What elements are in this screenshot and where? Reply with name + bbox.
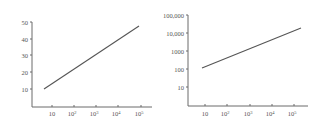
right-x-tick-label: 103 xyxy=(244,110,254,118)
left-x-tick-label: 104 xyxy=(112,110,122,118)
left-x-tick-label: 105 xyxy=(135,110,145,118)
left-y-tick-label: 10 xyxy=(22,86,29,93)
charts-canvas: 50 40 30 20 10 10 102 103 104 105 100,00… xyxy=(0,0,328,126)
right-y-tick-label: 100 xyxy=(174,66,184,73)
right-x-tick-label: 102 xyxy=(221,110,230,118)
left-y-tick-label: 20 xyxy=(22,69,29,76)
right-x-tick-label: 104 xyxy=(266,110,276,118)
right-x-tick-label: 105 xyxy=(288,110,298,118)
right-y-tick-label: 10 xyxy=(178,84,185,91)
left-y-tick-label: 50 xyxy=(22,19,29,26)
left-chart: 50 40 30 20 10 10 102 103 104 105 xyxy=(22,19,153,118)
right-y-tick-label: 10,000 xyxy=(166,30,184,37)
right-y-tick-label: 100,000 xyxy=(163,12,184,19)
right-series-line xyxy=(202,28,301,68)
left-y-tick-label: 30 xyxy=(22,52,29,59)
left-x-tick-label: 103 xyxy=(90,110,100,118)
left-series-line xyxy=(44,26,139,89)
right-chart: 100,000 10,000 1000 100 10 10 102 103 10… xyxy=(163,12,308,118)
right-y-tick-label: 1000 xyxy=(171,48,184,55)
left-x-tick-label: 10 xyxy=(49,110,56,117)
left-x-tick-label: 102 xyxy=(68,110,77,118)
left-y-tick-label: 40 xyxy=(22,36,29,43)
right-x-tick-label: 10 xyxy=(202,110,209,117)
